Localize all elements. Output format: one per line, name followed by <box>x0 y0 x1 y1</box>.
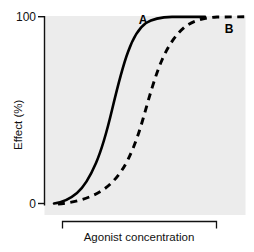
chart-figure: 100 0 Effect (%) Agonist concentration A… <box>0 0 254 252</box>
x-axis-bracket <box>63 222 217 229</box>
y-axis-title: Effect (%) <box>12 100 24 150</box>
dose-response-chart: 100 0 Effect (%) Agonist concentration A… <box>0 0 254 252</box>
plot-area-background <box>45 16 246 215</box>
series-label-a: A <box>139 13 148 27</box>
y-tick-label-0: 0 <box>29 197 36 211</box>
x-axis-title: Agonist concentration <box>84 231 195 243</box>
series-label-b: B <box>225 22 234 36</box>
y-tick-label-100: 100 <box>16 10 36 24</box>
